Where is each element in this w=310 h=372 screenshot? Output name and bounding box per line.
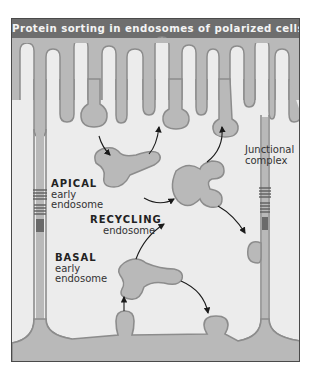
lateral-membrane-left (12, 129, 72, 343)
basal-membrane (12, 311, 300, 362)
apical-lumen (12, 37, 300, 137)
arrow-recycling-to-lateral (218, 206, 245, 233)
apical-early-endosome (95, 148, 160, 187)
arrow-apical-to-recycling (144, 198, 174, 203)
lateral-fusing-vesicle (248, 242, 261, 263)
recycling-endosome (172, 161, 224, 207)
junctional-complex-left (33, 190, 47, 232)
arrow-apical-to-lumen (149, 127, 159, 154)
recycling-endosome-label: RECYCLING endosome (90, 215, 162, 236)
diagram-figure: Protein sorting in endosomes of polarize… (11, 18, 300, 362)
apical-endosome-label: APICAL early endosome (51, 179, 103, 211)
junctional-complex-label: Junctional complex (245, 145, 294, 166)
basal-endosome-label: BASAL early endosome (55, 253, 107, 285)
arrow-basal-to-basolateral (181, 281, 208, 313)
basal-early-endosome (119, 259, 183, 299)
